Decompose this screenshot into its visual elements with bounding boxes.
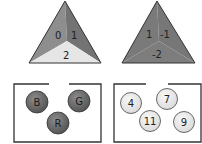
ball-9-label: 9 <box>181 117 187 128</box>
ball-11-label: 11 <box>144 116 157 127</box>
ball-r: R <box>47 112 69 134</box>
ball-7: 7 <box>157 89 178 110</box>
triangle-right-label-left: 1 <box>146 29 152 40</box>
ball-b-label: B <box>34 97 41 108</box>
box-right: 4 7 11 9 <box>114 84 201 142</box>
diagram-canvas: 0 1 2 1 -1 -2 B G R 4 <box>0 0 202 144</box>
triangle-left-label-bottom: 2 <box>63 50 69 61</box>
triangle-left: 0 1 2 <box>29 1 101 63</box>
ball-4: 4 <box>121 93 142 114</box>
box-left: B G R <box>14 84 101 142</box>
triangle-right-label-bottom: -2 <box>152 49 162 60</box>
triangle-right: 1 -1 -2 <box>122 1 195 63</box>
ball-9: 9 <box>174 112 195 133</box>
triangle-left-label-right: 1 <box>71 30 77 41</box>
ball-7-label: 7 <box>164 94 170 105</box>
triangle-left-label-left: 0 <box>55 30 61 41</box>
ball-4-label: 4 <box>128 98 134 109</box>
ball-g-label: G <box>75 96 83 107</box>
ball-b: B <box>26 91 48 113</box>
ball-11: 11 <box>140 111 161 132</box>
ball-g: G <box>68 90 90 112</box>
ball-r-label: R <box>55 118 62 129</box>
triangle-right-label-right: -1 <box>160 29 170 40</box>
